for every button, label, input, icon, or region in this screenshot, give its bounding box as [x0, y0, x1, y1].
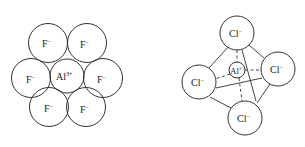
edge-top-bottom — [242, 50, 256, 101]
al-label-left: Al3+ — [56, 71, 73, 82]
f-label-bottom-left: F− — [44, 103, 54, 114]
diagram-canvas: F− F− F− F− F− F− Al3+ Cl− Cl− Cl− Cl− A… — [0, 0, 305, 147]
dash-al-bottom — [239, 78, 242, 101]
edge-right-bottom — [257, 84, 270, 103]
edge-top-left — [209, 46, 229, 68]
f-label-right: F− — [97, 74, 107, 85]
edge-top-right — [249, 45, 264, 58]
edge-left-bottom — [210, 97, 231, 108]
f-label-top-right: F− — [80, 39, 90, 50]
f-label-top-left: F− — [42, 38, 52, 49]
f-label-left: F− — [26, 74, 36, 85]
f-label-bottom-right: F− — [80, 104, 90, 115]
alf-packing-diagram: F− F− F− F− F− F− Al3+ — [12, 24, 123, 127]
alcl-tetrahedral-diagram: Cl− Cl− Cl− Cl− Al3+ — [182, 16, 295, 135]
dash-al-left — [215, 74, 230, 79]
